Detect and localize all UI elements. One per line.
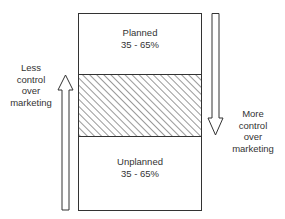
- less-control-line: marketing: [6, 97, 56, 109]
- planned-label: Planned 35 - 65%: [100, 27, 180, 50]
- less-control-line: control: [6, 74, 56, 86]
- up-arrow-icon: [58, 75, 73, 210]
- more-control-line: marketing: [225, 143, 281, 155]
- unplanned-label: Unplanned 35 - 65%: [100, 156, 180, 179]
- more-control-line: over: [225, 131, 281, 143]
- less-control-label: Less control over marketing: [6, 62, 56, 108]
- unplanned-title: Unplanned: [100, 156, 180, 168]
- down-arrow-icon: [208, 14, 223, 136]
- more-control-label: More control over marketing: [225, 108, 281, 154]
- less-control-line: over: [6, 85, 56, 97]
- planned-range: 35 - 65%: [100, 39, 180, 51]
- less-control-line: Less: [6, 62, 56, 74]
- planned-title: Planned: [100, 27, 180, 39]
- more-control-line: control: [225, 120, 281, 132]
- hatched-band: [79, 75, 202, 137]
- more-control-line: More: [225, 108, 281, 120]
- unplanned-range: 35 - 65%: [100, 168, 180, 180]
